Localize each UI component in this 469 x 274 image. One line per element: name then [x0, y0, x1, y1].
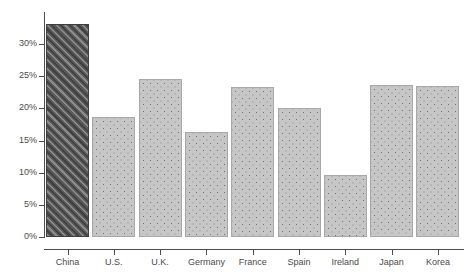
x-axis-tick — [114, 250, 115, 255]
x-axis-tick — [206, 250, 207, 255]
x-axis-label-france: France — [239, 257, 267, 267]
x-axis-label-china: China — [56, 257, 80, 267]
x-axis-tick — [68, 250, 69, 255]
x-axis-tick — [345, 250, 346, 255]
x-axis-label-ireland: Ireland — [332, 257, 360, 267]
x-axis-tick — [160, 250, 161, 255]
x-axis-tick — [438, 250, 439, 255]
x-axis-label-spain: Spain — [287, 257, 310, 267]
x-axis-labels: ChinaU.S.U.K.GermanyFranceSpainIrelandJa… — [0, 0, 469, 274]
x-axis-tick — [392, 250, 393, 255]
x-axis-label-korea: Korea — [426, 257, 450, 267]
x-axis-label-japan: Japan — [379, 257, 404, 267]
bar-chart: 0%5%10%15%20%25%30% ChinaU.S.U.K.Germany… — [0, 0, 469, 274]
x-axis-tick — [253, 250, 254, 255]
x-axis-label-germany: Germany — [188, 257, 225, 267]
x-axis-label-u-s: U.S. — [105, 257, 123, 267]
x-axis-tick — [299, 250, 300, 255]
x-axis-label-u-k: U.K. — [151, 257, 169, 267]
